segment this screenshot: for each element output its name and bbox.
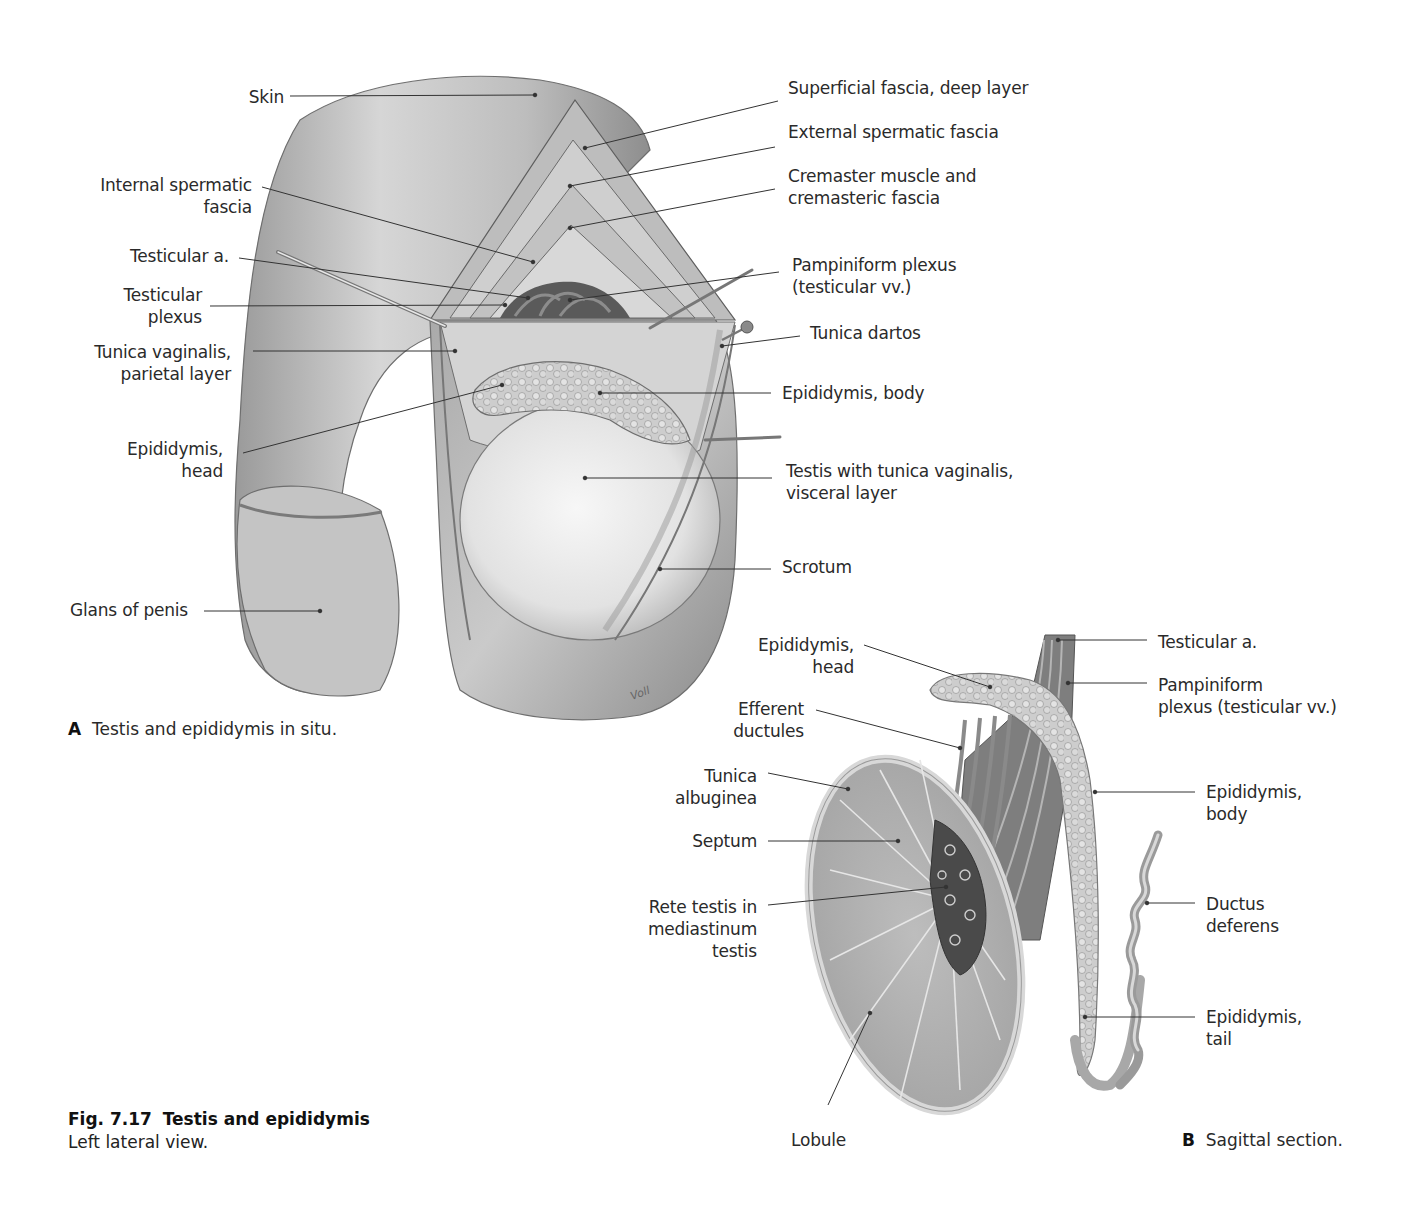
figure-title: Testis and epididymis (163, 1109, 370, 1129)
leader-dot (531, 260, 535, 264)
leader-dot (318, 609, 322, 613)
leader-dot (598, 391, 602, 395)
label-testis-visceral-layer: Testis with tunica vaginalis, visceral l… (786, 460, 1013, 504)
panel-a-caption: A Testis and epididymis in situ. (68, 718, 337, 740)
label-superficial-fascia-deep-layer: Superficial fascia, deep layer (788, 77, 1028, 99)
label-lobule: Lobule (791, 1129, 846, 1151)
label-glans-of-penis: Glans of penis (70, 599, 188, 621)
leader-dot (958, 746, 962, 750)
label-tunica-vaginalis-parietal: Tunica vaginalis, parietal layer (94, 341, 231, 385)
panel-b-letter: B (1182, 1130, 1195, 1150)
figure-number: Fig. 7.17 (68, 1109, 152, 1129)
label-scrotum: Scrotum (782, 556, 852, 578)
label-pampiniform-plexus-b: Pampiniform plexus (testicular vv.) (1158, 674, 1337, 718)
leader-dot (1083, 1015, 1087, 1019)
panel-b-caption-text: Sagittal section. (1206, 1130, 1343, 1150)
figure-subtitle: Left lateral view. (68, 1131, 370, 1154)
label-external-spermatic-fascia: External spermatic fascia (788, 121, 999, 143)
leader-dot (533, 93, 537, 97)
label-testicular-artery-b: Testicular a. (1158, 631, 1257, 653)
label-skin: Skin (249, 86, 284, 108)
leader-line (864, 645, 990, 687)
label-epididymis-tail: Epididymis, tail (1206, 1006, 1302, 1050)
leader-dot (583, 476, 587, 480)
panel-b-illustration (774, 635, 1158, 1134)
label-epididymis-body-b: Epididymis, body (1206, 781, 1302, 825)
label-epididymis-body: Epididymis, body (782, 382, 924, 404)
leader-dot (526, 296, 530, 300)
leader-dot (1145, 901, 1149, 905)
panel-a-caption-text: Testis and epididymis in situ. (92, 719, 337, 739)
leader-dot (658, 567, 662, 571)
label-ductus-deferens: Ductus deferens (1206, 893, 1279, 937)
label-tunica-dartos: Tunica dartos (810, 322, 921, 344)
leader-dot (720, 344, 724, 348)
figure-caption: Fig. 7.17 Testis and epididymis Left lat… (68, 1108, 370, 1154)
label-testicular-artery: Testicular a. (130, 245, 229, 267)
label-internal-spermatic-fascia: Internal spermatic fascia (100, 174, 252, 218)
leader-dot (503, 303, 507, 307)
leader-line (816, 710, 960, 748)
leader-dot (846, 787, 850, 791)
leader-dot (1093, 790, 1097, 794)
leader-dot (944, 885, 948, 889)
panel-a-letter: A (68, 719, 81, 739)
leader-dot (896, 839, 900, 843)
leader-dot (500, 383, 504, 387)
label-pampiniform-plexus: Pampiniform plexus (testicular vv.) (792, 254, 956, 298)
leader-dot (583, 146, 587, 150)
leader-dot (568, 298, 572, 302)
leader-dot (568, 226, 572, 230)
label-testicular-plexus: Testicular plexus (124, 284, 202, 328)
leader-dot (1066, 681, 1070, 685)
leader-dot (988, 685, 992, 689)
panel-b-caption: B Sagittal section. (1182, 1129, 1343, 1151)
leader-dot (568, 184, 572, 188)
label-rete-testis: Rete testis in mediastinum testis (648, 896, 757, 962)
label-cremaster-muscle: Cremaster muscle and cremasteric fascia (788, 165, 976, 209)
label-epididymis-head-b: Epididymis, head (758, 634, 854, 678)
leader-dot (453, 349, 457, 353)
label-epididymis-head: Epididymis, head (127, 438, 223, 482)
label-efferent-ductules: Efferent ductules (733, 698, 804, 742)
label-septum: Septum (692, 830, 757, 852)
label-tunica-albuginea: Tunica albuginea (675, 765, 757, 809)
leader-dot (1056, 638, 1060, 642)
leader-dot (868, 1011, 872, 1015)
panel-a-illustration (235, 76, 780, 719)
